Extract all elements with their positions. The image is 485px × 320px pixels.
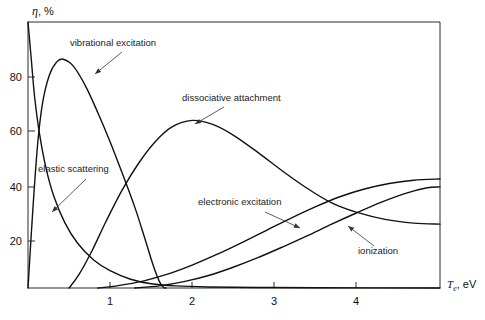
y-axis-ticks	[28, 77, 35, 241]
curve-ionization	[135, 187, 440, 288]
annotation-leader-elastic-scattering	[52, 179, 86, 212]
x-axis-title-unit: , eV	[457, 278, 477, 290]
x-axis-title: Te, eV	[447, 278, 477, 293]
annotation-arrowhead-dissociative-attachment	[195, 119, 201, 124]
svg-text:η, %: η, %	[32, 4, 54, 18]
annotation-elastic-scattering: elastic scattering	[38, 163, 109, 212]
annotation-label-elastic-scattering: elastic scattering	[38, 163, 109, 174]
annotation-arrowhead-electronic-excitation	[294, 223, 300, 228]
annotation-electronic-excitation: electronic excitation	[198, 196, 300, 228]
annotation-label-ionization: ionization	[358, 245, 398, 256]
chart-figure: 80 60 40 20 1 2 3 4 η, % Te,	[0, 0, 485, 320]
x-tick-label-1: 1	[107, 295, 113, 307]
x-tick-label-2: 2	[189, 295, 195, 307]
x-axis-tick-labels: 1 2 3 4	[107, 295, 359, 307]
efficiency-vs-electron-temperature-chart: 80 60 40 20 1 2 3 4 η, % Te,	[0, 0, 485, 320]
y-tick-label-80: 80	[10, 71, 22, 83]
x-tick-label-3: 3	[271, 295, 277, 307]
svg-text:Te, eV: Te, eV	[447, 278, 477, 293]
annotation-ionization: ionization	[348, 226, 398, 256]
y-axis-title: η, %	[32, 4, 54, 18]
annotation-label-electronic-excitation: electronic excitation	[198, 196, 281, 207]
curve-annotations: vibrational excitationdissociative attac…	[38, 37, 398, 256]
annotation-label-vibrational-excitation: vibrational excitation	[70, 37, 156, 48]
annotation-arrowhead-vibrational-excitation	[95, 68, 101, 74]
y-axis-title-unit: , %	[38, 5, 54, 17]
annotation-label-dissociative-attachment: dissociative attachment	[182, 92, 281, 103]
annotation-dissociative-attachment: dissociative attachment	[182, 92, 281, 124]
y-axis-tick-labels: 80 60 40 20	[10, 71, 22, 247]
x-tick-label-4: 4	[353, 295, 359, 307]
annotation-vibrational-excitation: vibrational excitation	[70, 37, 156, 74]
y-tick-label-40: 40	[10, 181, 22, 193]
annotation-arrowhead-ionization	[348, 226, 354, 232]
y-tick-label-20: 20	[10, 235, 22, 247]
y-tick-label-60: 60	[10, 125, 22, 137]
